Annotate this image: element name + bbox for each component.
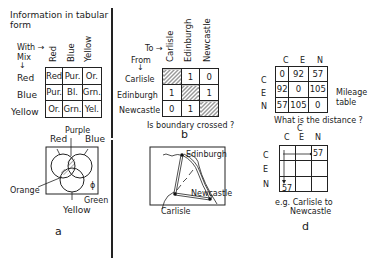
- cell: 0: [276, 67, 289, 82]
- cell: 1: [181, 101, 200, 117]
- d-col-header-n: N: [317, 56, 323, 65]
- d-row-header-c: C: [261, 76, 267, 85]
- venn-label-red: Red: [50, 134, 67, 144]
- venn-label-orange: Orange: [10, 186, 40, 195]
- boundary-table: 10 11 01: [162, 68, 219, 117]
- mileage-label-1: Mileage: [336, 88, 367, 97]
- map-label-carlisle: Carlisle: [161, 207, 191, 216]
- cell: 92: [289, 67, 308, 82]
- cell: 1: [200, 85, 219, 101]
- cell: [163, 69, 182, 85]
- panel-d-caption: d: [302, 222, 309, 232]
- panel-b-caption: b: [181, 130, 188, 140]
- example-caption-2: Newcastle: [290, 207, 331, 216]
- example-value-right: 57: [313, 149, 323, 158]
- row-header-edinburgh: Edinburgh: [117, 91, 158, 100]
- mileage-label-2: table: [336, 98, 356, 107]
- cell: [280, 146, 296, 161]
- cell: 0: [289, 82, 308, 97]
- d-row-header-n: N: [261, 102, 267, 111]
- example-col-c: C: [284, 133, 290, 142]
- example-col-e: E: [299, 133, 304, 142]
- cell: [296, 146, 312, 161]
- cell: 0: [200, 69, 219, 85]
- venn-label-phi: ϕ: [90, 181, 95, 190]
- cell: 1: [163, 85, 182, 101]
- cell: 57: [308, 67, 327, 82]
- example-top-c: C: [297, 124, 303, 133]
- venn-label-yellow: Yellow: [63, 205, 91, 215]
- map-label-newcastle: Newcastle: [191, 189, 232, 198]
- cell: [280, 161, 296, 176]
- cell: [296, 176, 312, 191]
- col-header-edinburgh: Edinburgh: [183, 19, 193, 62]
- cell: 0: [163, 101, 182, 117]
- mileage-table: 09257 920105 571050: [275, 66, 328, 113]
- d-col-header-e: E: [300, 56, 305, 65]
- distance-question: What is the distance ?: [274, 116, 363, 125]
- cell: 92: [276, 82, 289, 97]
- col-header-newcastle: Newcastle: [202, 18, 212, 62]
- example-caption-1: e.g. Carlisle to: [275, 198, 333, 207]
- boundary-question: Is boundary crossed ?: [147, 121, 234, 130]
- cell: [200, 101, 219, 117]
- example-row-c: C: [263, 151, 269, 160]
- cell: [296, 161, 312, 176]
- d-row-header-e: E: [261, 89, 266, 98]
- from-arrow: ↓: [137, 63, 144, 72]
- example-col-n: N: [315, 133, 321, 142]
- venn-label-green: Green: [84, 196, 108, 205]
- row-header-newcastle: Newcastle: [119, 106, 160, 115]
- col-header-carlisle: Carlisle: [165, 31, 175, 62]
- example-row-e: E: [263, 165, 268, 174]
- row-header-carlisle: Carlisle: [125, 75, 155, 84]
- example-value-bottom: 57: [282, 184, 292, 193]
- cell: 0: [308, 97, 327, 112]
- cell: 57: [276, 97, 289, 112]
- d-col-header-c: C: [283, 56, 289, 65]
- cell: [181, 85, 200, 101]
- cell: 1: [181, 69, 200, 85]
- cell: 105: [289, 97, 308, 112]
- cell: [312, 161, 328, 176]
- venn-label-blue: Blue: [85, 134, 105, 144]
- cell: [312, 176, 328, 191]
- panel-a-caption: a: [55, 227, 62, 237]
- to-label: To →: [145, 44, 163, 53]
- cell: 105: [308, 82, 327, 97]
- example-row-n: N: [263, 180, 269, 189]
- map-label-edinburgh: Edinburgh: [186, 150, 227, 159]
